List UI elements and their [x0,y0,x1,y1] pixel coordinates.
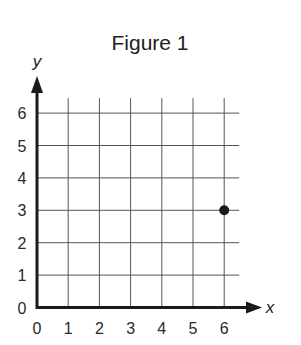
y-tick-label: 4 [18,170,27,187]
chart-figure: Figure 1 0123456 0123456 y x [0,0,301,345]
x-tick-label: 6 [220,320,229,337]
y-tick-labels: 0123456 [18,105,27,316]
x-tick-label: 4 [157,320,166,337]
chart-title: Figure 1 [111,31,188,54]
y-tick-label: 3 [18,202,27,219]
axes [31,76,262,314]
x-tick-label: 2 [95,320,104,337]
x-tick-label: 0 [33,320,42,337]
y-tick-label: 1 [18,267,27,284]
x-axis-label: x [265,298,275,317]
y-tick-label: 0 [18,300,27,317]
y-tick-label: 2 [18,235,27,252]
grid-lines [37,98,239,307]
data-point [219,205,229,215]
x-tick-label: 3 [126,320,135,337]
x-tick-labels: 0123456 [33,320,229,337]
y-axis-arrow-icon [31,76,43,93]
x-axis-arrow-icon [246,302,262,314]
x-tick-label: 1 [64,320,73,337]
y-tick-label: 5 [18,138,27,155]
y-axis-label: y [32,52,43,71]
data-points [219,205,229,215]
y-tick-label: 6 [18,105,27,122]
x-tick-label: 5 [189,320,198,337]
